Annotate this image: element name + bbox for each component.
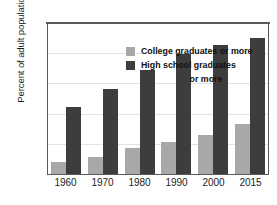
x-tick-1990: 1990 (158, 177, 195, 188)
x-tick-1980: 1980 (121, 177, 158, 188)
x-tick-2000: 2000 (195, 177, 232, 188)
legend-swatch-highschool (126, 61, 135, 70)
bar-group-2015 (235, 22, 265, 174)
bar-2015-series0 (235, 124, 250, 174)
legend-swatch-college (126, 47, 135, 56)
legend-label-highschool-line2: or more (141, 74, 271, 85)
bar-1980-series1 (140, 70, 155, 174)
x-axis-tick-labels: 196019701980199020002015 (47, 177, 269, 197)
x-tick-2015: 2015 (232, 177, 269, 188)
bar-2000-series0 (198, 135, 213, 174)
legend-entry-highschool: High school graduates (126, 60, 277, 71)
legend-label-college: College graduates or more (141, 46, 252, 57)
x-tick-1970: 1970 (84, 177, 121, 188)
bar-1970-series0 (88, 157, 103, 174)
bars-container (48, 22, 268, 174)
bar-group-1980 (125, 22, 155, 174)
bar-group-2000 (198, 22, 228, 174)
bar-1970-series1 (103, 89, 118, 174)
bar-1980-series0 (125, 148, 140, 174)
legend-entry-college: College graduates or more (126, 46, 277, 57)
plot-area: College graduates or more High school gr… (47, 22, 269, 175)
bar-1960-series0 (51, 162, 66, 174)
bar-chart-figure: Percent of adult population 100 80 60 40… (0, 0, 277, 205)
bar-group-1970 (88, 22, 118, 174)
bar-group-1960 (51, 22, 81, 174)
bar-group-1990 (161, 22, 191, 174)
x-tick-1960: 1960 (47, 177, 84, 188)
chart-legend: College graduates or more High school gr… (126, 46, 277, 85)
legend-label-highschool: High school graduates (141, 60, 236, 71)
bar-1990-series0 (161, 142, 176, 174)
bar-1960-series1 (66, 107, 81, 174)
